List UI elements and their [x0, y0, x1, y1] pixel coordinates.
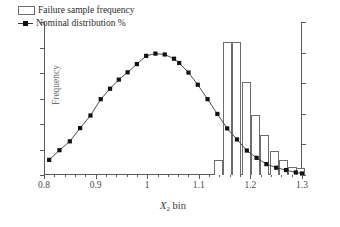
data-point-marker [196, 83, 200, 87]
data-point-marker [284, 168, 288, 172]
x-axis-minor-tick [188, 175, 189, 177]
data-point-marker [205, 97, 209, 101]
x-axis-minor-tick [168, 175, 169, 177]
x-axis-tick-label: 1.2 [244, 180, 256, 190]
data-point-marker [177, 61, 181, 65]
x-axis-title-subscript: 2 [166, 205, 170, 213]
data-point-marker [215, 112, 219, 116]
y-axis-right-tick [302, 114, 306, 115]
y-axis-right-tick [302, 22, 306, 23]
y-axis-right-tick [302, 83, 306, 84]
x-axis-minor-tick [54, 175, 55, 177]
data-point-marker [47, 158, 51, 162]
x-axis-major-tick [96, 175, 97, 179]
x-axis-minor-tick [178, 175, 179, 177]
x-axis-major-tick [250, 175, 251, 179]
x-axis-tick-label: 0.9 [90, 180, 102, 190]
data-point-marker [153, 52, 157, 56]
data-point-marker [68, 139, 72, 143]
x-axis-minor-tick [292, 175, 293, 177]
open-rectangle-icon [18, 6, 35, 15]
x-axis-tick-label: 1.1 [193, 180, 205, 190]
y-axis-right-tick [302, 144, 306, 145]
data-point-marker [254, 156, 258, 160]
legend-item-failure-sample-frequency: Failure sample frequency [18, 4, 135, 17]
data-point-marker [144, 54, 148, 58]
x-axis-tick-label: 0.8 [38, 180, 50, 190]
plot-area: 0300600900120015001800 0%2%4%6%8%10% 0.8… [44, 22, 302, 175]
x-axis-minor-tick [65, 175, 66, 177]
data-point-marker [135, 62, 139, 66]
x-axis-minor-tick [240, 175, 241, 177]
x-axis-major-tick [302, 175, 303, 179]
x-axis-minor-tick [75, 175, 76, 177]
x-axis-major-tick [147, 175, 148, 179]
x-axis-minor-tick [271, 175, 272, 177]
x-axis-minor-tick [281, 175, 282, 177]
x-axis-minor-tick [261, 175, 262, 177]
data-point-marker [186, 70, 190, 74]
x-axis-tick-label: 1 [145, 180, 150, 190]
x-axis-title-rest: bin [170, 200, 186, 211]
data-point-marker [235, 137, 239, 141]
data-point-marker [245, 148, 249, 152]
x-axis-minor-tick [137, 175, 138, 177]
x-axis-minor-tick [219, 175, 220, 177]
data-point-marker [88, 113, 92, 117]
data-point-marker [172, 57, 176, 61]
data-point-marker [99, 97, 103, 101]
x-axis-minor-tick [158, 175, 159, 177]
x-axis-minor-tick [85, 175, 86, 177]
chart-figure: Failure sample frequency Nominal distrib… [0, 0, 340, 227]
y-axis-left-tick [40, 73, 44, 74]
x-axis-minor-tick [106, 175, 107, 177]
x-axis-title: X2 bin [44, 200, 302, 211]
x-axis-minor-tick [230, 175, 231, 177]
y-axis-left-tick [40, 48, 44, 49]
x-axis-minor-tick [209, 175, 210, 177]
line-series-nominal-distribution [44, 22, 302, 175]
y-axis-left-tick [40, 22, 44, 23]
y-axis-left-tick [40, 99, 44, 100]
x-axis-minor-tick [127, 175, 128, 177]
data-point-marker [225, 126, 229, 130]
x-axis-tick-label: 1.3 [296, 180, 308, 190]
data-point-marker [57, 148, 61, 152]
x-axis-major-tick [44, 175, 45, 179]
x-axis-major-tick [199, 175, 200, 179]
y-axis-title: Frequency [51, 35, 61, 135]
data-point-marker [274, 166, 278, 170]
y-axis-left-tick [40, 124, 44, 125]
legend-label-failure-sample-frequency: Failure sample frequency [38, 4, 135, 17]
data-point-marker [108, 87, 112, 91]
data-point-marker [294, 170, 298, 174]
data-point-marker [264, 162, 268, 166]
data-point-marker [78, 126, 82, 130]
y-axis-right-tick [302, 53, 306, 54]
x-axis-minor-tick [116, 175, 117, 177]
data-point-marker [163, 52, 167, 56]
data-point-marker [117, 78, 121, 82]
y-axis-left-tick [40, 150, 44, 151]
data-point-marker [125, 70, 129, 74]
line-marker-icon [18, 20, 33, 27]
